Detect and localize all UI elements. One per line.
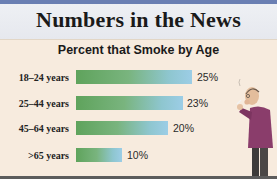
bar-label: 18–24 years	[19, 72, 69, 83]
bar	[76, 121, 168, 135]
bar-value: 10%	[127, 149, 148, 161]
bar-value: 23%	[187, 97, 208, 109]
page-title: Numbers in the News	[0, 7, 277, 33]
bar-value: 20%	[173, 122, 194, 134]
bar	[76, 96, 183, 110]
bottom-border	[0, 176, 277, 179]
bar	[76, 148, 122, 162]
bar	[76, 70, 192, 84]
chart-subtitle: Percent that Smoke by Age	[0, 43, 277, 57]
smoking-man-illustration	[232, 78, 277, 176]
bar-label: >65 years	[28, 150, 69, 161]
bar-label: 45–64 years	[19, 123, 69, 134]
bar-value: 25%	[197, 71, 218, 83]
bar-label: 25–44 years	[19, 98, 69, 109]
